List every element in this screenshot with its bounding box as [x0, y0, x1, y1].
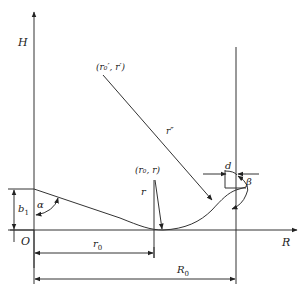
- r-double-prime-radius: [103, 75, 212, 200]
- R0-text: R: [177, 264, 185, 275]
- d-label: d: [225, 161, 231, 171]
- r-label: r: [141, 187, 146, 197]
- profile-diagram: H R O (r₀′, r′) (r₀, r) r r″ α β d b1 r0…: [0, 0, 306, 296]
- r-axis-label: R: [282, 237, 290, 248]
- h-axis-label: H: [18, 37, 28, 48]
- origin-label: O: [21, 236, 30, 247]
- b1-subscript: 1: [24, 209, 28, 217]
- beta-label: β: [246, 177, 252, 187]
- point-prime-label: (r₀′, r′): [96, 63, 125, 72]
- alpha-label: α: [37, 200, 44, 210]
- r0-subscript: 0: [98, 244, 102, 252]
- R0-subscript: 0: [185, 270, 189, 278]
- r0-dim-label: r0: [93, 239, 102, 252]
- b1-label: b1: [18, 204, 29, 217]
- diagram-svg: [0, 0, 306, 296]
- point-label: (r₀, r): [135, 166, 160, 175]
- profile-curve: [34, 187, 246, 230]
- r-double-prime-label: r″: [166, 127, 174, 136]
- R0-dim-label: R0: [177, 265, 189, 278]
- r-radius: [155, 180, 162, 229]
